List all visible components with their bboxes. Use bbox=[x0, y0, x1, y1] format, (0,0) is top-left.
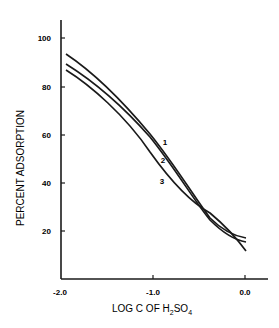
x-tick-m1: -1.0 bbox=[146, 288, 160, 297]
x-tick-m2: -2.0 bbox=[53, 288, 67, 297]
curve-label-2: 2 bbox=[161, 156, 166, 165]
curve-3 bbox=[66, 70, 246, 251]
y-tick-80: 80 bbox=[42, 83, 51, 92]
x-tick-0: 0.0 bbox=[239, 288, 251, 297]
y-axis-label: PERCENT ADSORPTION bbox=[15, 110, 26, 226]
y-tick-40: 40 bbox=[42, 179, 51, 188]
curve-label-3: 3 bbox=[160, 177, 165, 186]
curve-label-1: 1 bbox=[163, 138, 168, 147]
y-tick-60: 60 bbox=[42, 131, 51, 140]
y-tick-100: 100 bbox=[38, 34, 52, 43]
y-tick-20: 20 bbox=[42, 227, 51, 236]
x-axis-label: LOG C OF H2SO4 bbox=[112, 303, 192, 316]
chart: 100 80 60 40 20 -2.0 -1.0 0.0 PERCENT AD… bbox=[0, 0, 279, 328]
